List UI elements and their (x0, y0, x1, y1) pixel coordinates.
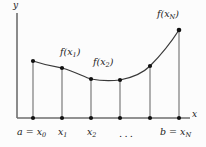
label-f-x2-prefix: f(x (93, 56, 106, 67)
tick-label-x0: a = x0 (17, 127, 46, 138)
curve-point-x0 (31, 59, 35, 63)
axis-point-xN (177, 116, 181, 120)
tick-label-xN: b = xN (160, 127, 191, 138)
label-f-x1-suffix: ) (77, 46, 81, 57)
axis-point-x1 (60, 116, 64, 120)
function-curve (33, 30, 179, 81)
axis-point-x3 (118, 116, 122, 120)
label-f-x2-suffix: ) (110, 56, 114, 67)
label-f-xN-suffix: ) (175, 8, 179, 19)
label-f-xN-prefix: f(x (157, 8, 170, 19)
label-f-x2: f(x2) (93, 57, 113, 68)
curve-point-x2 (89, 77, 93, 81)
tick-label-x2-subscript: 2 (92, 131, 96, 139)
y-axis-label: y (13, 1, 18, 10)
label-f-xN: f(xN) (157, 9, 179, 20)
x-axis-label: x (192, 110, 197, 119)
axis-point-x0 (31, 116, 35, 120)
label-f-x1: f(x1) (60, 47, 80, 58)
label-f-x1-prefix: f(x (60, 46, 73, 57)
tick-label-x0-subscript: 0 (42, 131, 46, 139)
tick-label-x2: x2 (87, 127, 96, 138)
tick-label-x0-prefix: a = x (17, 126, 42, 137)
curve-point-xN (177, 28, 182, 33)
tick-label-ellipsis: ... (119, 129, 135, 139)
tick-label-xN-prefix: b = x (160, 126, 185, 137)
y-axis-label-text: y (13, 0, 18, 10)
figure-canvas (0, 0, 206, 147)
riemann-sum-figure: y x f(xN) f(x1) f(x2) a = x0 x1 x2 ... b… (0, 0, 206, 147)
tick-label-x1: x1 (58, 127, 67, 138)
curve-point-x3 (118, 78, 122, 82)
tick-label-xN-subscript: N (185, 131, 191, 139)
curve-point-x4 (148, 64, 152, 68)
axis-point-x2 (89, 116, 93, 120)
tick-label-x1-subscript: 1 (63, 131, 67, 139)
x-axis-label-text: x (192, 109, 197, 119)
curve-point-x1 (60, 66, 64, 70)
axis-point-x4 (148, 116, 152, 120)
